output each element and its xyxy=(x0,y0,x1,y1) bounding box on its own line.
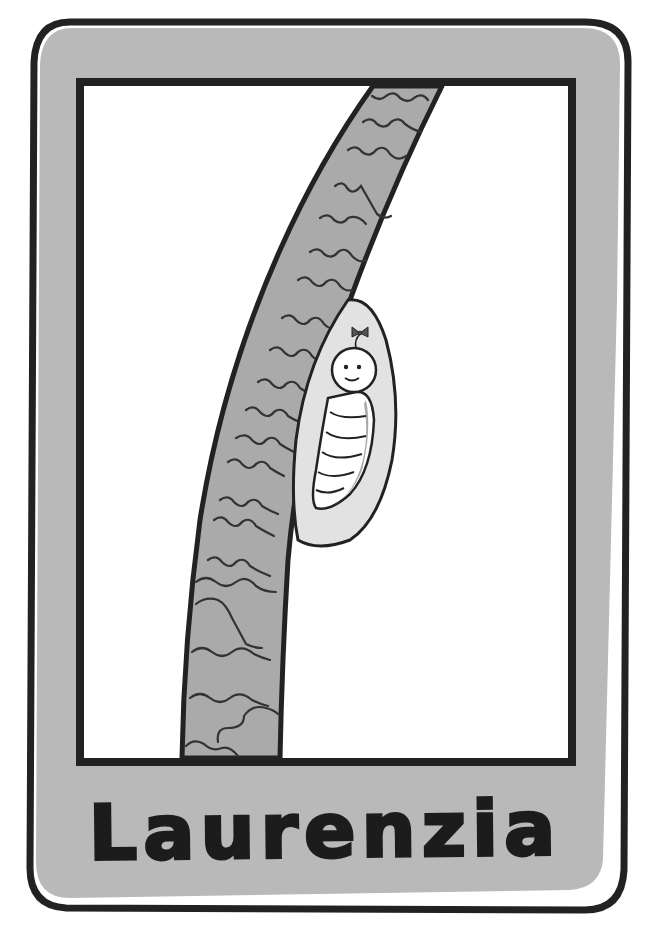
larva-eye-right xyxy=(357,365,361,369)
larva-head xyxy=(332,348,376,392)
larva-eye-left xyxy=(344,365,348,369)
card-name-label: Laurenzia xyxy=(69,772,580,887)
